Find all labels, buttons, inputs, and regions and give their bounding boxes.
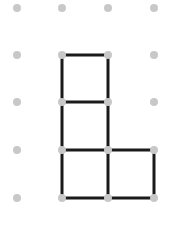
grid-dot xyxy=(13,194,21,202)
grid-dot xyxy=(13,4,21,12)
grid-dot xyxy=(58,194,66,202)
grid-dot xyxy=(104,51,112,59)
grid-dot xyxy=(13,146,21,154)
grid-dot xyxy=(58,146,66,154)
grid-dot xyxy=(150,51,158,59)
grid-dot xyxy=(150,146,158,154)
grid-dot xyxy=(13,98,21,106)
grid-dot xyxy=(13,51,21,59)
grid-dot xyxy=(150,4,158,12)
grid-dot xyxy=(58,4,66,12)
grid-dot xyxy=(104,146,112,154)
grid-dot xyxy=(150,194,158,202)
grid-dot xyxy=(58,51,66,59)
grid-dot xyxy=(58,98,66,106)
dot-grid-diagram xyxy=(0,0,191,227)
matchstick-segments xyxy=(62,55,154,198)
grid-dot xyxy=(104,194,112,202)
grid-dot xyxy=(104,98,112,106)
grid-dot xyxy=(104,4,112,12)
grid-dot xyxy=(150,98,158,106)
